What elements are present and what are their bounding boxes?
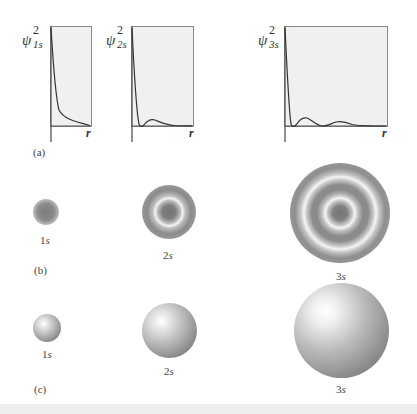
- sphere-label-1s: 1s: [42, 348, 52, 360]
- sphere-3s: [294, 283, 389, 378]
- sphere-label-3s: 3s: [336, 383, 346, 395]
- panel-a-label: (a): [33, 146, 45, 158]
- bottom-strip: [0, 404, 417, 414]
- label-letter: s: [48, 348, 52, 360]
- x-axis-label-3s: r: [382, 126, 387, 141]
- label-letter: s: [169, 249, 173, 261]
- sphere-2s: [142, 303, 197, 358]
- cloud-label-2s: 2s: [163, 249, 173, 261]
- panel-b-label: (b): [34, 264, 47, 276]
- sphere-1s: [33, 314, 61, 342]
- density-cloud-2s: [142, 185, 196, 239]
- panel-c-label: (c): [34, 383, 46, 395]
- sphere-label-2s: 2s: [164, 365, 174, 377]
- label-letter: s: [170, 365, 174, 377]
- label-letter: s: [342, 383, 346, 395]
- cloud-label-1s: 1s: [40, 234, 50, 246]
- curve-3s: [0, 0, 417, 150]
- density-cloud-1s: [33, 199, 59, 225]
- density-cloud-3s: [290, 163, 390, 263]
- label-letter: s: [46, 234, 50, 246]
- label-letter: s: [342, 270, 346, 282]
- cloud-label-3s: 3s: [336, 270, 346, 282]
